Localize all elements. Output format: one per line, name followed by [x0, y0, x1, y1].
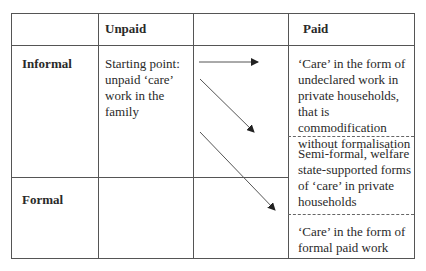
arrow-to-formal-paid-icon — [200, 132, 275, 210]
arrow-to-semi-formal-icon — [200, 79, 254, 132]
arrows-layer — [0, 0, 426, 271]
